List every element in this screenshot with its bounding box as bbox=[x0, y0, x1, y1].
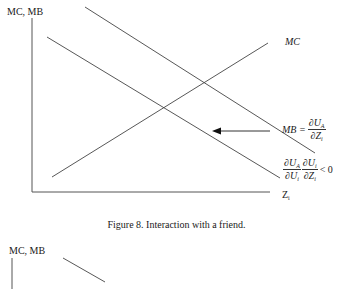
shift-num1: ∂U bbox=[284, 157, 296, 168]
shift-fraction-2: ∂Ui ∂Zi bbox=[302, 158, 318, 181]
mb-equation-lhs: MB = bbox=[282, 125, 306, 135]
diagram-canvas bbox=[0, 0, 353, 289]
y-axis-label: MC, MB bbox=[7, 7, 43, 17]
shift-condition: ∂UA ∂Ui ∂Ui ∂Zi < 0 bbox=[283, 158, 333, 181]
mc-curve bbox=[52, 43, 268, 177]
shift-num2-sub: i bbox=[315, 163, 317, 169]
shift-den1-sub: i bbox=[297, 176, 299, 182]
mb-fraction: ∂UA ∂Zi bbox=[308, 118, 326, 141]
mb-numerator-sub: A bbox=[321, 123, 325, 129]
shift-inequality: < 0 bbox=[320, 165, 333, 175]
mb-numerator: ∂U bbox=[309, 117, 321, 128]
mc-label: MC bbox=[285, 37, 300, 47]
shift-fraction-1: ∂UA ∂Ui bbox=[283, 158, 301, 181]
shift-arrow-head-icon bbox=[212, 128, 221, 135]
mb-denominator-sub: i bbox=[321, 136, 323, 142]
mb-equation: MB = ∂UA ∂Zi bbox=[282, 118, 326, 141]
mb-original-curve bbox=[85, 7, 315, 153]
shift-den2: ∂Z bbox=[304, 170, 315, 181]
x-axis-label-sub: i bbox=[288, 195, 290, 201]
fig9-y-axis-label: MC, MB bbox=[9, 246, 45, 256]
shift-num1-sub: A bbox=[296, 163, 300, 169]
mb-denominator: ∂Z bbox=[311, 130, 322, 141]
shift-den1: ∂U bbox=[285, 170, 297, 181]
x-axis-label: Zi bbox=[282, 190, 290, 200]
shift-den2-sub: i bbox=[314, 176, 316, 182]
fig9-mb-curve bbox=[63, 258, 105, 282]
figure-caption: Figure 8. Interaction with a friend. bbox=[0, 219, 353, 230]
shift-num2: ∂U bbox=[303, 157, 315, 168]
